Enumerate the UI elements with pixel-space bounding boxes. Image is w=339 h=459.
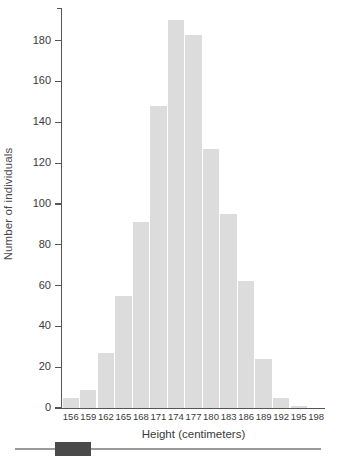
histogram-figure: Number of individuals 020406080100120140… — [0, 0, 339, 440]
y-tick-0 — [55, 407, 61, 408]
y-tick-label: 180 — [17, 35, 51, 46]
y-tick-label: 20 — [17, 361, 51, 372]
bar — [203, 149, 219, 408]
bar — [273, 398, 289, 408]
y-tick-label: 160 — [17, 75, 51, 86]
y-tick-label: 80 — [17, 239, 51, 250]
y-tick-120 — [55, 163, 61, 164]
bar — [168, 20, 184, 408]
y-tick-100 — [55, 203, 61, 204]
bar — [185, 35, 201, 408]
horizontal-scrollbar[interactable] — [0, 440, 339, 459]
bar — [220, 214, 236, 408]
y-tick-label: 40 — [17, 320, 51, 331]
y-tick-160 — [55, 81, 61, 82]
y-tick-label: 0 — [17, 402, 51, 413]
bar — [238, 281, 254, 408]
bar — [133, 222, 149, 408]
bar — [63, 398, 79, 408]
x-tick-label: 198 — [304, 412, 328, 422]
bar — [98, 353, 114, 408]
x-axis-line — [61, 408, 325, 409]
y-tick-80 — [55, 244, 61, 245]
bar — [150, 106, 166, 408]
x-axis-title: Height (centimeters) — [62, 428, 325, 440]
bar — [80, 390, 96, 408]
y-tick-label: 60 — [17, 280, 51, 291]
y-tick-40 — [55, 326, 61, 327]
bar — [291, 406, 307, 408]
y-tick-label: 140 — [17, 116, 51, 127]
bar — [115, 296, 131, 408]
y-tick-20 — [55, 367, 61, 368]
plot-area — [62, 8, 325, 408]
bar — [255, 359, 271, 408]
y-tick-180 — [55, 40, 61, 41]
y-tick-label: 120 — [17, 157, 51, 168]
scrollbar-thumb[interactable] — [55, 442, 91, 456]
y-tick-140 — [55, 122, 61, 123]
y-tick-label: 100 — [17, 198, 51, 209]
y-tick-60 — [55, 285, 61, 286]
